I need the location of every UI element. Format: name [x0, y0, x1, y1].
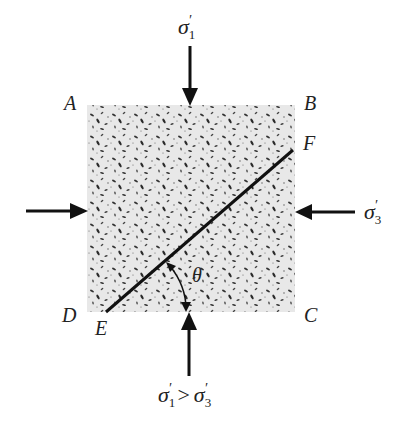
- left-arrow-head: [70, 203, 88, 219]
- plane-label-f: F: [302, 132, 316, 154]
- corner-label-a: A: [62, 92, 77, 114]
- stress-condition-label: σ1′>σ3′: [158, 381, 211, 410]
- corner-label-c: C: [304, 304, 318, 326]
- sigma1-top-label: σ1′: [178, 13, 195, 42]
- corner-label-d: D: [61, 304, 77, 326]
- bottom-arrow-head: [181, 312, 197, 330]
- stress-diagram: A B C D E F θ σ1′ σ3′ σ1′>σ3′: [0, 0, 408, 437]
- corner-label-b: B: [304, 92, 316, 114]
- theta-label: θ: [192, 264, 202, 286]
- top-arrow-head: [182, 88, 198, 106]
- sigma3-right-label: σ3′: [364, 198, 381, 227]
- soil-element: [87, 105, 295, 312]
- plane-label-e: E: [94, 317, 107, 339]
- right-arrow-head: [295, 204, 312, 220]
